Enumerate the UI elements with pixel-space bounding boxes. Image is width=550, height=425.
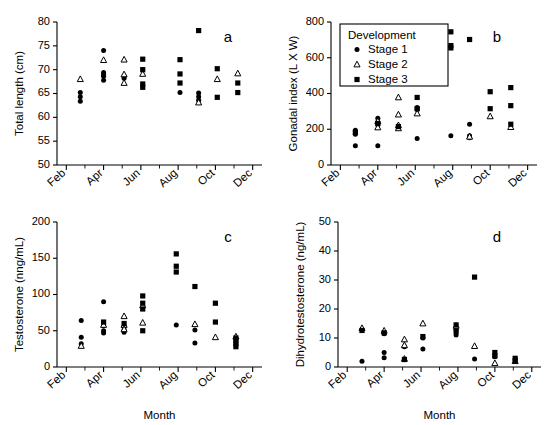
x-tick-label-jun: Jun xyxy=(401,369,423,390)
x-tick-label-aug: Aug xyxy=(156,369,179,392)
y-tick-label: 400 xyxy=(306,86,324,98)
y-axis-title: Testosterone (nng/mL) xyxy=(13,237,25,352)
panel-letter-b: b xyxy=(493,28,501,45)
series-stage-3 xyxy=(359,275,517,364)
y-tick-label: 40 xyxy=(319,244,331,256)
data-points xyxy=(359,275,518,366)
x-tick-label-apr: Apr xyxy=(358,166,379,187)
series-stage-2 xyxy=(78,302,239,348)
x-tick-label-oct: Oct xyxy=(195,368,217,389)
panel-letter-a: a xyxy=(224,28,233,45)
y-tick-label: 55 xyxy=(38,134,50,146)
y-tick-label: 600 xyxy=(306,51,324,63)
x-tick-label-apr: Apr xyxy=(84,368,105,389)
y-axis-title: Gonadal index (L X W) xyxy=(287,35,299,151)
x-axis-title: Month xyxy=(144,409,176,421)
x-axis-title: Month xyxy=(424,409,456,421)
y-tick-label: 0 xyxy=(44,360,50,372)
legend-item-2: Stage 2 xyxy=(368,58,408,70)
y-tick-label: 50 xyxy=(319,215,331,227)
y-tick-label: 80 xyxy=(38,15,50,27)
y-tick-label: 200 xyxy=(32,215,50,227)
y-tick-label: 200 xyxy=(306,122,324,134)
panel-a-total-length: 50556065707580FebAprJunAugOctDecTotal le… xyxy=(0,0,275,212)
series-stage-1 xyxy=(359,327,497,364)
axes: 01020304050FebAprJunAugOctDec xyxy=(319,215,541,391)
x-tick-label-dec: Dec xyxy=(231,368,254,391)
panel-b-plot: 0200400600800FebAprJunAugOctDecGonadal i… xyxy=(275,0,550,213)
x-tick-label-dec: Dec xyxy=(510,368,533,391)
y-tick-label: 70 xyxy=(38,63,50,75)
x-tick-label-jun: Jun xyxy=(120,369,142,390)
series-stage-2 xyxy=(375,94,514,139)
data-points xyxy=(77,28,241,105)
series-stage-1 xyxy=(353,105,472,148)
series-stage-1 xyxy=(79,299,198,346)
x-tick-label-jun: Jun xyxy=(395,167,417,188)
panel-d-dihydrotestosterone: 01020304050FebAprJunAugOctDecDihydrotest… xyxy=(275,212,550,425)
y-tick-label: 100 xyxy=(32,287,50,299)
panel-c-plot: 050100150200FebAprJunAugOctDecTestostero… xyxy=(0,212,275,425)
y-axis-title: Total length (cm) xyxy=(13,51,25,136)
panel-b-gonadal-index: 0200400600800FebAprJunAugOctDecGonadal i… xyxy=(275,0,550,212)
y-tick-label: 30 xyxy=(319,273,331,285)
y-axis-title: Dihydrotestosterone (ng/mL) xyxy=(294,221,306,367)
y-tick-label: 50 xyxy=(38,324,50,336)
y-tick-label: 65 xyxy=(38,86,50,98)
x-tick-label-aug: Aug xyxy=(436,369,459,392)
y-tick-label: 0 xyxy=(325,360,331,372)
x-tick-label-aug: Aug xyxy=(431,167,454,190)
legend-item-3: Stage 3 xyxy=(368,73,408,85)
legend-item-1: Stage 1 xyxy=(368,43,408,55)
series-stage-3 xyxy=(101,251,239,349)
x-tick-label-apr: Apr xyxy=(84,166,105,187)
panel-d-plot: 01020304050FebAprJunAugOctDecDihydrotest… xyxy=(275,212,550,425)
x-tick-label-aug: Aug xyxy=(156,167,179,190)
x-tick-label-oct: Oct xyxy=(195,166,217,187)
legend: DevelopmentStage 1Stage 2Stage 3 xyxy=(340,24,448,86)
y-tick-label: 20 xyxy=(319,302,331,314)
y-tick-label: 75 xyxy=(38,39,50,51)
panel-a-plot: 50556065707580FebAprJunAugOctDecTotal le… xyxy=(0,0,275,213)
panel-letter-c: c xyxy=(224,228,232,245)
x-tick-label-dec: Dec xyxy=(231,166,254,189)
data-points xyxy=(78,251,239,349)
y-tick-label: 800 xyxy=(306,15,324,27)
y-tick-label: 60 xyxy=(38,110,50,122)
x-tick-label-jun: Jun xyxy=(120,167,142,188)
panel-letter-d: d xyxy=(493,228,501,245)
y-tick-label: 50 xyxy=(38,158,50,170)
y-tick-label: 150 xyxy=(32,251,50,263)
x-tick-label-oct: Oct xyxy=(470,166,492,187)
x-tick-label-apr: Apr xyxy=(364,368,385,389)
legend-title: Development xyxy=(348,29,417,41)
x-tick-label-dec: Dec xyxy=(506,166,529,189)
panel-c-testosterone: 050100150200FebAprJunAugOctDecTestostero… xyxy=(0,212,275,425)
figure-panel-grid: 50556065707580FebAprJunAugOctDecTotal le… xyxy=(0,0,550,425)
y-tick-label: 10 xyxy=(319,331,331,343)
x-tick-label-oct: Oct xyxy=(475,368,497,389)
y-tick-label: 0 xyxy=(318,158,324,170)
